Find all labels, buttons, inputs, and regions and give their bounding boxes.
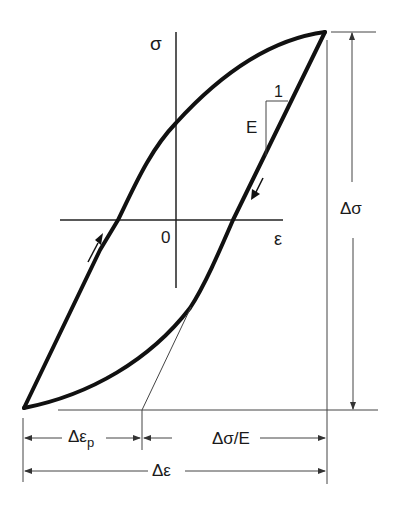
hysteresis-loop-diagram xyxy=(0,0,396,511)
slope-one-label: 1 xyxy=(274,84,283,100)
delta-epsilon-p-subscript: p xyxy=(87,435,94,450)
origin-label: 0 xyxy=(161,229,170,246)
slope-e-label: E xyxy=(246,119,257,136)
delta-sigma-over-e-label: Δσ/E xyxy=(210,430,252,447)
delta-epsilon-p-label: Δεp xyxy=(66,428,96,445)
delta-epsilon-p-main: Δε xyxy=(68,427,87,446)
elastic-projection-line xyxy=(142,307,191,410)
sigma-axis-label: σ xyxy=(150,34,162,53)
epsilon-axis-label: ε xyxy=(274,230,282,248)
delta-sigma-label: Δσ xyxy=(338,200,364,217)
delta-epsilon-label: Δε xyxy=(150,462,173,479)
